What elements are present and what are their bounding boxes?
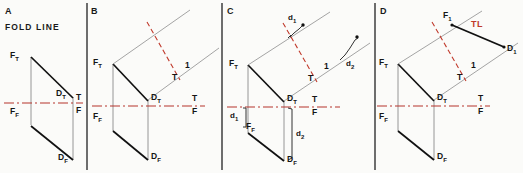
panel-letter-c: C	[227, 6, 234, 16]
point-label-ft-a: FT	[10, 51, 19, 62]
panel-d-geometry	[377, 11, 518, 160]
fold-label-t1-c: T	[308, 74, 313, 83]
panel-letter-b: B	[91, 6, 98, 16]
fold-label-f-b: F	[192, 107, 197, 116]
point-label-dt-b: DT	[151, 93, 161, 104]
point-label-df-a: DF	[58, 153, 68, 164]
figure-root: A FOLD LINE FT DT FF DF T F B FT DT FF D…	[0, 0, 523, 173]
point-label-df-d: DF	[437, 152, 447, 163]
true-length-label: TL	[471, 19, 483, 29]
point-label-dt-a: DT	[56, 89, 66, 100]
dim-label-d2-front-c: d2	[296, 130, 304, 140]
dim-label-d2-aux-c: d2	[346, 60, 354, 70]
fold-line-caption: FOLD LINE	[5, 22, 60, 32]
panel-letter-a: A	[5, 6, 12, 16]
fold-label-f-c: F	[312, 108, 317, 117]
point-label-dt-c: DT	[287, 94, 297, 105]
point-label-ft-b: FT	[93, 58, 102, 69]
fold-label-t1-b: T	[172, 73, 177, 82]
point-label-ft-d: FT	[379, 58, 388, 69]
fold-label-one-c: 1	[324, 62, 329, 71]
fold-label-t-c: T	[312, 95, 317, 104]
panel-b-geometry	[92, 10, 219, 160]
point-label-ff-b: FF	[93, 112, 102, 123]
fold-label-f-d: F	[478, 107, 483, 116]
point-label-ff-d: FF	[379, 112, 388, 123]
fold-label-t1-d: T	[457, 73, 462, 82]
fold-label-t-b: T	[192, 94, 197, 103]
point-f1-dot	[450, 23, 453, 26]
point-label-df-b: DF	[151, 152, 161, 163]
panel-letter-d: D	[380, 6, 387, 16]
point-label-ff-a: FF	[10, 107, 19, 118]
point-label-df-c: DF	[287, 155, 297, 166]
fold-label-one-d: 1	[471, 61, 476, 70]
dim-label-d1-aux-c: d1	[288, 14, 296, 24]
point-label-dt-d: DT	[437, 93, 447, 104]
point-d1-dot	[502, 45, 505, 48]
dim-label-d1-front-c: d1	[230, 112, 238, 122]
point-label-d1-d: D1	[507, 44, 516, 55]
engineering-drawing-canvas	[0, 0, 523, 173]
point-label-f1-d: F1	[443, 11, 452, 22]
fold-label-t-a: T	[76, 93, 81, 102]
fold-label-t-d: T	[478, 94, 483, 103]
point-label-ff-c: FF	[246, 122, 255, 133]
fold-label-one-b: 1	[185, 61, 190, 70]
fold-label-f-a: F	[76, 106, 81, 115]
point-label-ft-c: FT	[229, 59, 238, 70]
